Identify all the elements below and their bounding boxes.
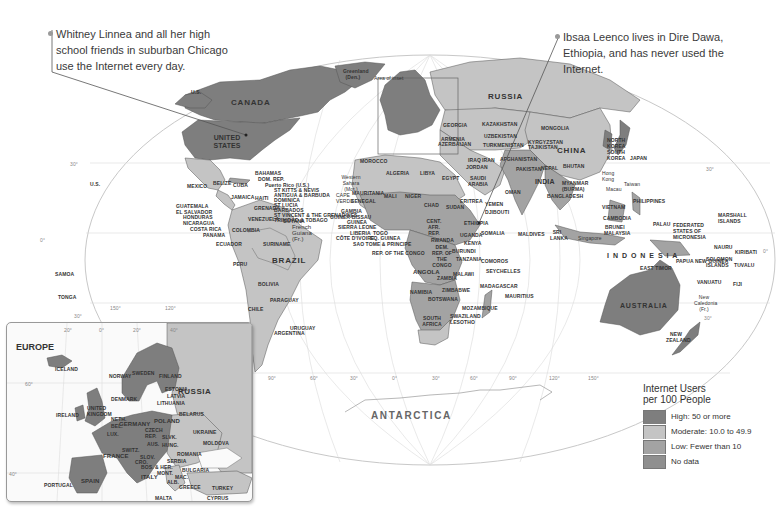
label-azerbaijan: AZERBAIJAN bbox=[438, 141, 471, 147]
inset-iberia-shape bbox=[69, 455, 107, 493]
label-iran: IRAN bbox=[482, 157, 495, 163]
label-tonga: TONGA bbox=[58, 294, 76, 300]
inset-label-malta: MALTA bbox=[155, 495, 172, 501]
inset-label-norway: NORWAY bbox=[109, 373, 132, 379]
inset-label-latvia: LATVIA bbox=[167, 393, 185, 399]
label-maldives: MALDIVES bbox=[518, 231, 545, 237]
label-mali: MALI bbox=[384, 193, 397, 199]
label-haiti: HAITI bbox=[255, 195, 269, 201]
inset-label-lux: LUX. bbox=[107, 431, 119, 437]
label-paraguay: PARAGUAY bbox=[270, 297, 299, 303]
label-new-caledonia: New Caledonia (Fr.) bbox=[694, 294, 714, 312]
label-seychelles: SEYCHELLES bbox=[486, 268, 520, 274]
inset-lat-40: 40° bbox=[9, 471, 17, 477]
label-colombia: COLOMBIA bbox=[232, 227, 260, 233]
label-ethiopia: ETHIOPIA bbox=[464, 220, 488, 226]
label-rep-congo: REP. OF THE CONGO bbox=[372, 250, 425, 256]
label-lon-150w: 150° bbox=[110, 305, 121, 311]
label-belize: BELIZE bbox=[213, 180, 231, 186]
label-bhutan: BHUTAN bbox=[563, 163, 584, 169]
label-bolivia: BOLIVIA bbox=[258, 281, 279, 287]
inset-label-finland: FINLAND bbox=[159, 373, 182, 379]
inset-lon-40e: 40° bbox=[170, 327, 178, 333]
inset-label-portugal: PORTUGAL bbox=[44, 482, 73, 488]
label-mongolia: MONGOLIA bbox=[541, 125, 569, 131]
label-uganda: UGANDA bbox=[460, 232, 483, 238]
label-lon-150e: 150° bbox=[588, 375, 599, 381]
label-lon-90e: 90° bbox=[509, 375, 517, 381]
label-australia: AUSTRALIA bbox=[620, 302, 668, 309]
label-malaysia: MALAYSIA bbox=[604, 230, 630, 236]
label-namibia: NAMIBIA bbox=[410, 289, 432, 295]
label-lon-60e: 60° bbox=[470, 375, 478, 381]
label-panama: PANAMA bbox=[203, 232, 225, 238]
label-kazakhstan: KAZAKHSTAN bbox=[482, 121, 517, 127]
legend-label-nodata: No data bbox=[671, 457, 699, 466]
label-senegal: SENEGAL bbox=[351, 198, 376, 204]
callout-whitney-line-1: Whitney Linnea and all her high bbox=[56, 26, 276, 42]
label-cape-verde: CAPE VERDE bbox=[336, 192, 352, 204]
label-lat-0-left: 0° bbox=[40, 237, 45, 243]
label-morocco: MOROCCO bbox=[360, 158, 387, 164]
label-fiji: FIJI bbox=[733, 281, 742, 287]
label-mexico: MEXICO bbox=[187, 183, 207, 189]
label-kenya: KENYA bbox=[464, 240, 482, 246]
label-sudan: SUDAN bbox=[446, 204, 464, 210]
label-cuba: CUBA bbox=[233, 182, 248, 188]
label-pakistan: PAKISTAN bbox=[516, 166, 542, 172]
label-samoa: SAMOA bbox=[55, 271, 74, 277]
label-tuvalu: TUVALU bbox=[734, 262, 755, 268]
label-taiwan: Taiwan bbox=[624, 181, 640, 187]
inset-label-greece: GREECE bbox=[179, 484, 201, 490]
label-lon-120w: 120° bbox=[165, 305, 176, 311]
label-indonesia: I N D O N E S I A bbox=[607, 252, 678, 259]
label-vietnam: VIETNAM bbox=[602, 204, 625, 210]
inset-lon-20e: 20° bbox=[133, 327, 141, 333]
legend-swatch-high bbox=[643, 410, 666, 424]
callout-bullet-icon bbox=[48, 31, 53, 36]
legend-title: Internet Users per 100 People bbox=[643, 383, 782, 405]
label-nepal: NEPAL bbox=[541, 165, 558, 171]
legend-title-line-2: per 100 People bbox=[643, 394, 782, 405]
callout-ibsaa-line-1: Ibsaa Leenco lives in Dire Dawa, bbox=[563, 29, 778, 45]
inset-label-czech: CZECH REP. bbox=[145, 427, 159, 439]
label-uruguay: URUGUAY bbox=[290, 325, 316, 331]
label-mozambique: MOZAMBIQUE bbox=[462, 305, 498, 311]
legend: Internet Users per 100 People High: 50 o… bbox=[643, 383, 782, 469]
label-lon-0: 0° bbox=[392, 375, 397, 381]
label-japan: JAPAN bbox=[630, 155, 647, 161]
label-rwanda: RWANDA bbox=[431, 237, 454, 243]
label-lon-30e: 30° bbox=[432, 375, 440, 381]
label-south-africa: SOUTH AFRICA bbox=[422, 315, 442, 327]
inset-label-lithuania: LITHUANIA bbox=[157, 400, 185, 406]
inset-label-sweden: SWEDEN bbox=[132, 370, 155, 376]
label-iraq: IRAQ bbox=[468, 157, 481, 163]
legend-swatch-low bbox=[643, 440, 666, 454]
inset-label-belarus: BELARUS bbox=[179, 411, 204, 417]
inset-label-italy: ITALY bbox=[141, 474, 158, 480]
label-bangladesh: BANGLADESH bbox=[547, 193, 583, 199]
legend-title-line-1: Internet Users bbox=[643, 383, 782, 394]
inset-label-poland: POLAND bbox=[154, 418, 180, 424]
label-tanzania: TANZANIA bbox=[456, 256, 482, 262]
label-lon-90w: 90° bbox=[268, 375, 276, 381]
inset-label-ireland: IRELAND bbox=[56, 412, 79, 418]
label-united-states: UNITED STATES bbox=[212, 134, 242, 150]
inset-label-slovakia: SLVK. bbox=[162, 434, 177, 440]
label-sri-lanka: SRI LANKA bbox=[550, 229, 564, 241]
label-grenada: GRENADA bbox=[254, 205, 280, 211]
inset-turkey-shape bbox=[187, 471, 252, 495]
label-eritrea: ERITREA bbox=[460, 198, 483, 204]
legend-swatch-moderate bbox=[643, 425, 666, 439]
label-jamaica: JAMAICA bbox=[231, 194, 254, 200]
label-lat-30s-left: 30° bbox=[74, 313, 82, 319]
inset-label-cyprus: CYPRUS bbox=[207, 495, 228, 501]
label-lat-30s-right: 30° bbox=[704, 315, 712, 321]
inset-label-mont: MONT. bbox=[157, 470, 173, 476]
label-palau: PALAU bbox=[653, 221, 670, 227]
label-ecuador: ECUADOR bbox=[216, 241, 242, 247]
label-chad: CHAD bbox=[424, 202, 439, 208]
label-saudi-arabia: SAUDI ARABIA bbox=[467, 175, 489, 187]
label-turkmenistan: TURKMENISTAN bbox=[483, 142, 524, 148]
label-comoros: COMOROS bbox=[481, 258, 508, 264]
